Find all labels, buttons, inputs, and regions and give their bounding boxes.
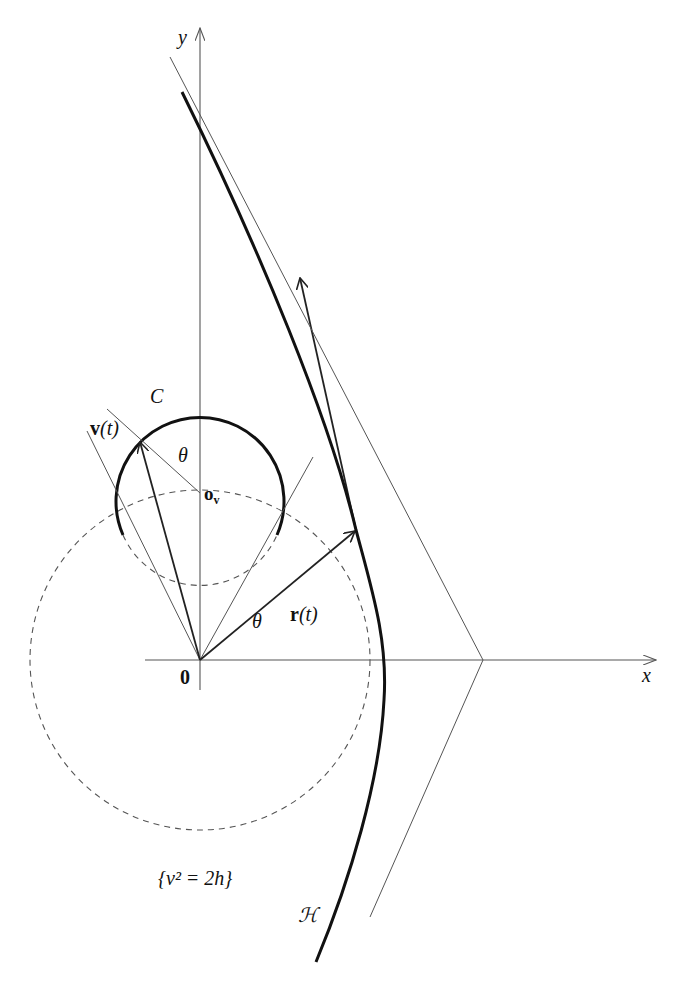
circle-label: C [150,385,164,407]
center-label: ov [204,483,220,507]
y-axis-label: y [176,26,187,49]
hyperbola-label: ℋ [298,904,321,926]
theta-lower-label: θ [252,610,262,632]
theta-upper-label: θ [178,444,188,466]
energy-set-label: {v² = 2h} [158,867,232,889]
hodograph-diagram: y x 0 C v(t) θ ov r(t) θ {v² = 2h} ℋ [0,0,690,982]
reflected-line [170,57,483,917]
x-axis-label: x [641,664,651,686]
origin-label: 0 [180,666,190,688]
velocity-vector [140,442,200,660]
position-vector [200,531,355,660]
position-label: r(t) [290,603,318,626]
velocity-label: v(t) [90,417,119,440]
hyperbola-curve [182,92,385,962]
